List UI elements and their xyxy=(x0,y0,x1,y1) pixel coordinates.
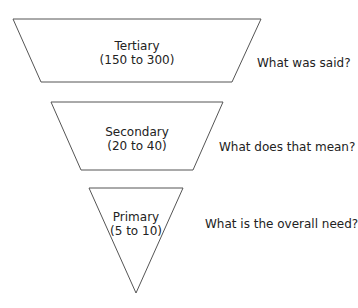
tertiary-label: Tertiary (150 to 300) xyxy=(100,39,175,67)
tertiary-name: Tertiary xyxy=(100,39,175,53)
tertiary-question: What was said? xyxy=(257,56,351,70)
primary-label: Primary (5 to 10) xyxy=(110,210,162,238)
secondary-range: (20 to 40) xyxy=(105,139,169,153)
secondary-question: What does that mean? xyxy=(219,140,355,154)
primary-question: What is the overall need? xyxy=(205,217,358,231)
primary-triangle xyxy=(89,188,183,293)
tertiary-range: (150 to 300) xyxy=(100,53,175,67)
secondary-name: Secondary xyxy=(105,125,169,139)
primary-range: (5 to 10) xyxy=(110,224,162,238)
primary-name: Primary xyxy=(110,210,162,224)
secondary-label: Secondary (20 to 40) xyxy=(105,125,169,153)
